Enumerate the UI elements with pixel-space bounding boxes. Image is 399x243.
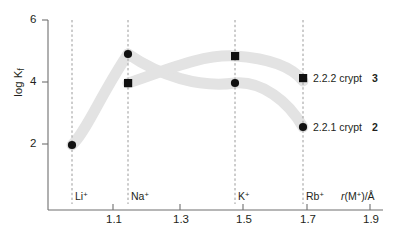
x-axis-title-open: (M: [345, 190, 357, 202]
data-point-square-na: [124, 79, 132, 87]
ion-label-rb-element: Rb: [306, 190, 319, 202]
y-tick-label-2: 2: [30, 138, 36, 150]
x-tick-label-1-5: 1.5: [236, 214, 252, 226]
legend-compound-number-2: 2: [372, 121, 378, 133]
y-tick-label-6: 6: [30, 14, 36, 26]
legend-label-2-2-2: 2.2.2 crypt: [313, 72, 362, 84]
ion-label-na-element: Na: [131, 190, 144, 202]
ion-label-li-element: Li: [75, 190, 83, 202]
ion-label-li-charge: +: [83, 190, 87, 199]
ion-label-rb-charge: +: [319, 190, 323, 199]
y-tick-label-4: 4: [30, 76, 36, 88]
legend-compound-number-3: 3: [372, 72, 378, 84]
legend-item-2-2-2: 2.2.2 crypt 3: [313, 73, 378, 84]
data-point-circle-k: [231, 79, 239, 87]
legend-label-2-2-1: 2.2.1 crypt: [313, 121, 362, 133]
ion-label-rb: Rb+: [306, 191, 324, 202]
legend-item-2-2-1: 2.2.1 crypt 2: [313, 122, 378, 133]
ion-label-k-element: K: [238, 190, 245, 202]
data-point-square-rb: [299, 74, 307, 82]
data-point-circle-rb: [299, 123, 307, 131]
band-segment-rise: [72, 54, 128, 145]
x-axis-title: r(M+)/Å: [341, 191, 375, 202]
x-tick-label-1-1: 1.1: [106, 214, 122, 226]
y-axis-title-subscript: f: [17, 68, 26, 70]
data-point-circle-li: [68, 141, 76, 149]
ion-label-k-charge: +: [245, 190, 249, 199]
data-point-circle-na: [124, 50, 132, 58]
y-axis-title-main: log K: [12, 71, 24, 97]
ion-label-na-charge: +: [144, 190, 148, 199]
figure-container: 6 4 2 log Kf 1.1 1.3 1.5 1.7 1.9 Li+ Na+…: [0, 0, 399, 243]
x-tick-label-1-7: 1.7: [300, 214, 316, 226]
y-axis-title: log Kf: [13, 50, 26, 116]
reference-lines: [72, 20, 303, 204]
ion-label-li: Li+: [75, 191, 88, 202]
band-segment-fall: [235, 56, 303, 81]
x-tick-label-1-3: 1.3: [173, 214, 189, 226]
band-segment-fall: [235, 83, 303, 127]
data-point-square-k: [231, 52, 239, 60]
ion-label-na: Na+: [131, 191, 149, 202]
ion-label-k: K+: [238, 191, 249, 202]
x-tick-label-1-9: 1.9: [363, 214, 379, 226]
x-axis-title-close: )/Å: [361, 190, 374, 202]
